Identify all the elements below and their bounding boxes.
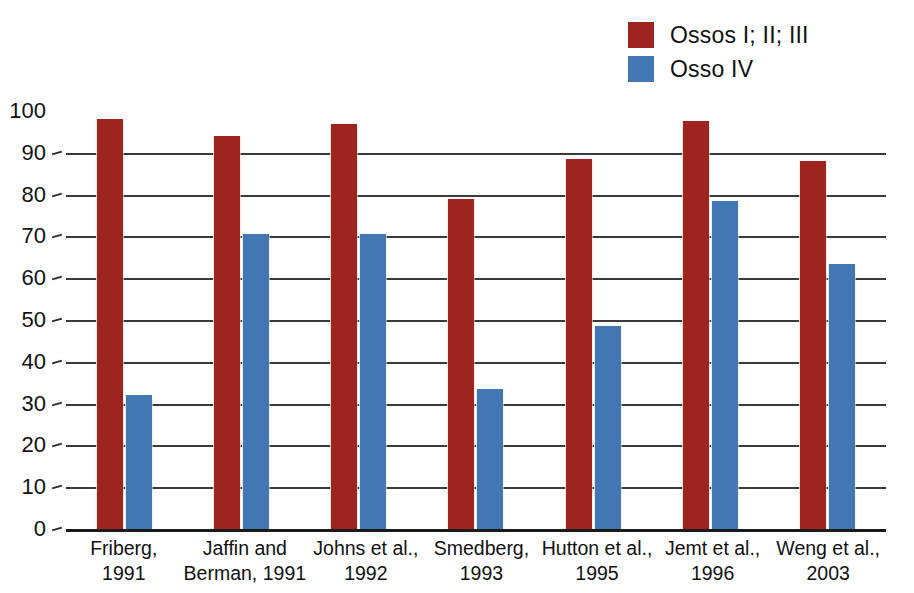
x-axis-label-line: Hutton et al., [541,536,653,561]
bar-group [535,111,652,529]
bar-group [183,111,300,529]
y-tick-label-70: 70 [22,225,46,247]
legend-swatch-ossos-i-ii-iii [628,22,654,48]
x-axis-label-line: 1993 [426,561,538,586]
y-tick-label-10: 10 [22,476,46,498]
y-tick-label-20: 20 [22,434,46,456]
bar-group [652,111,769,529]
x-axis-label: Hutton et al.,1995 [539,536,655,586]
x-axis-label: Johns et al.,1992 [308,536,424,586]
bar-ossos-i-ii-iii [214,136,240,529]
x-axis-label-line: Smedberg, [426,536,538,561]
bar-group [417,111,534,529]
y-tick-mark-0 [52,527,62,532]
bar-chart: Ossos I; II; III Osso IV 100908070605040… [0,0,914,593]
bar-group [769,111,886,529]
bar-osso-iv [595,326,621,529]
bar-ossos-i-ii-iii [331,124,357,529]
x-axis-label-line: Johns et al., [310,536,422,561]
y-tick-label-40: 40 [22,351,46,373]
bar-group [66,111,183,529]
y-tick-mark-60 [52,276,62,281]
bar-osso-iv [360,234,386,529]
legend-item-osso-iv: Osso IV [628,52,908,86]
x-axis-label-line: 2003 [772,561,884,586]
bar-ossos-i-ii-iii [448,199,474,529]
x-axis-label-line: Berman, 1991 [184,561,307,586]
x-axis-label: Weng et al.,2003 [770,536,886,586]
y-tick-label-50: 50 [22,309,46,331]
bar-osso-iv [712,201,738,529]
legend-label-ossos-i-ii-iii: Ossos I; II; III [670,24,809,47]
bar-osso-iv [477,389,503,529]
x-axis-label: Jaffin andBerman, 1991 [182,536,309,586]
bar-group [300,111,417,529]
y-tick-label-60: 60 [22,267,46,289]
chart-legend: Ossos I; II; III Osso IV [628,18,908,86]
x-axis-label-line: Friberg, [68,536,180,561]
x-axis-label-line: 1995 [541,561,653,586]
bar-groups [66,111,886,529]
legend-swatch-osso-iv [628,56,654,82]
y-tick-mark-90 [52,150,62,155]
bar-ossos-i-ii-iii [97,119,123,529]
bar-osso-iv [126,395,152,529]
y-tick-mark-50 [52,318,62,323]
legend-label-osso-iv: Osso IV [670,58,753,81]
y-tick-label-30: 30 [22,393,46,415]
bar-osso-iv [829,264,855,529]
x-axis-label-line: 1996 [657,561,769,586]
x-axis-category-labels: Friberg,1991Jaffin andBerman, 1991Johns … [66,536,886,586]
x-axis-label-line: 1991 [68,561,180,586]
x-axis-label-line: 1992 [310,561,422,586]
x-axis-label: Smedberg,1993 [424,536,540,586]
y-tick-mark-80 [52,192,62,197]
y-axis-tick-labels: 1009080706050403020100 [0,100,46,540]
bar-ossos-i-ii-iii [683,121,709,529]
y-tick-mark-40 [52,359,62,364]
bar-ossos-i-ii-iii [800,161,826,529]
y-tick-label-100: 100 [9,100,46,122]
x-axis-baseline [66,529,886,532]
y-tick-mark-10 [52,485,62,490]
x-axis-label-line: Jemt et al., [657,536,769,561]
y-tick-mark-30 [52,401,62,406]
y-tick-mark-20 [52,443,62,448]
x-axis-label: Friberg,1991 [66,536,182,586]
y-tick-label-0: 0 [34,518,46,540]
x-axis-label-line: Weng et al., [772,536,884,561]
bar-osso-iv [243,234,269,529]
y-tick-mark-70 [52,234,62,239]
y-tick-label-90: 90 [22,142,46,164]
bar-ossos-i-ii-iii [566,159,592,529]
y-tick-label-80: 80 [22,184,46,206]
x-axis-label: Jemt et al.,1996 [655,536,771,586]
legend-item-ossos-i-ii-iii: Ossos I; II; III [628,18,908,52]
x-axis-label-line: Jaffin and [184,536,307,561]
